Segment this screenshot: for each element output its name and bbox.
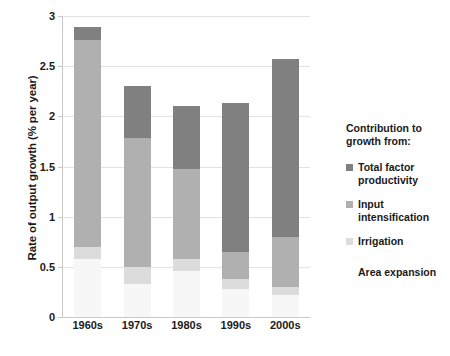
bar-segment[interactable]: [74, 247, 101, 259]
y-tick-label: 3: [49, 10, 55, 22]
legend-swatch-icon: [346, 164, 353, 171]
x-axis-label: 1990s: [211, 319, 260, 331]
plot-area: 00.511.522.53 1960s1970s1980s1990s2000s: [62, 16, 310, 317]
legend-swatch-icon: [346, 238, 353, 245]
y-tick-mark: [58, 317, 63, 318]
y-tick-label: 1.5: [40, 161, 55, 173]
bar-segment[interactable]: [272, 59, 299, 237]
bar-segment[interactable]: [124, 284, 151, 317]
bar-segment[interactable]: [272, 295, 299, 317]
x-axis-label: 2000s: [261, 319, 310, 331]
legend-entries: Total factor productivityInput intensifi…: [346, 161, 450, 248]
bar-group[interactable]: [173, 16, 200, 317]
legend-item-label: Total factor productivity: [358, 161, 450, 187]
bar-segment[interactable]: [222, 289, 249, 317]
bar-segment[interactable]: [173, 106, 200, 168]
x-axis-label: 1970s: [112, 319, 161, 331]
bar-segment[interactable]: [173, 169, 200, 259]
legend-item-label: Input intensification: [358, 198, 450, 224]
bar-segment[interactable]: [74, 259, 101, 317]
y-tick-label: 1: [49, 211, 55, 223]
bar-segment[interactable]: [124, 86, 151, 138]
bar-group[interactable]: [222, 16, 249, 317]
y-axis-title: Rate of output growth (% per year): [26, 38, 38, 298]
legend-title: Contribution to growth from:: [346, 122, 450, 148]
bar-segment[interactable]: [222, 252, 249, 279]
legend: Contribution to growth from: Total facto…: [346, 122, 450, 279]
y-tick-label: 2: [49, 110, 55, 122]
bar-segment[interactable]: [124, 138, 151, 266]
bar-group[interactable]: [272, 16, 299, 317]
y-tick-label: 0.5: [40, 261, 55, 273]
legend-swatch-icon: [346, 201, 353, 208]
bar-segment[interactable]: [124, 267, 151, 284]
bar-segment[interactable]: [173, 259, 200, 271]
x-axis-label: 1960s: [63, 319, 112, 331]
legend-item[interactable]: Input intensification: [346, 198, 450, 224]
gridline: [63, 317, 310, 318]
bars-layer: [63, 16, 310, 317]
bar-segment[interactable]: [74, 27, 101, 40]
bar-segment[interactable]: [222, 103, 249, 251]
y-tick-label: 0: [49, 311, 55, 323]
x-axis-label: 1980s: [162, 319, 211, 331]
bar-segment[interactable]: [74, 40, 101, 247]
stacked-bar-chart: Rate of output growth (% per year) 00.51…: [0, 0, 450, 356]
bar-group[interactable]: [124, 16, 151, 317]
legend-footer-label: Area expansion: [358, 266, 450, 279]
bar-segment[interactable]: [173, 271, 200, 317]
legend-item[interactable]: Total factor productivity: [346, 161, 450, 187]
bar-segment[interactable]: [222, 279, 249, 289]
bar-segment[interactable]: [272, 237, 299, 287]
bar-segment[interactable]: [272, 287, 299, 295]
legend-item[interactable]: Irrigation: [346, 235, 450, 248]
legend-item-label: Irrigation: [358, 235, 404, 248]
bar-group[interactable]: [74, 16, 101, 317]
y-tick-label: 2.5: [40, 60, 55, 72]
